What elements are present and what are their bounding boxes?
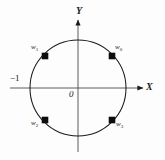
y-axis-label: Y [76, 6, 82, 16]
unit-circle-figure: Y X −1 0 w0 w1 w2 w3 [0, 0, 165, 160]
point-label-w3: w3 [116, 121, 123, 129]
point-label-w0-sub: 0 [120, 47, 123, 52]
point-label-w1-sub: 1 [36, 47, 39, 52]
figure-canvas [0, 0, 165, 160]
point-marker-w1 [42, 53, 49, 60]
negative-one-tick-label: −1 [10, 74, 20, 83]
point-marker-w3 [109, 117, 116, 124]
point-marker-w2 [42, 117, 49, 124]
origin-label: 0 [69, 90, 74, 99]
x-axis-label: X [146, 82, 153, 92]
point-marker-w0 [109, 53, 116, 60]
point-label-w1: w1 [31, 44, 38, 52]
point-label-w2-sub: 2 [36, 123, 39, 128]
point-label-w2: w2 [31, 120, 38, 128]
point-label-w3-sub: 3 [121, 124, 124, 129]
point-label-w0: w0 [115, 44, 122, 52]
